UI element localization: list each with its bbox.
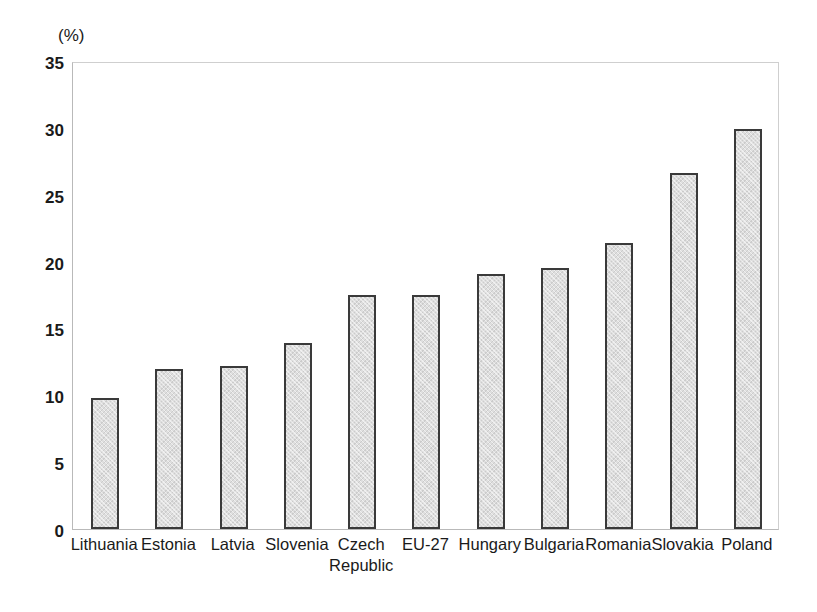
- bar-slot: [330, 63, 394, 529]
- x-axis-label: Poland: [705, 534, 789, 555]
- bar-poland[interactable]: [734, 129, 762, 529]
- bar-slot: [523, 63, 587, 529]
- y-axis-unit-label: (%): [58, 26, 84, 46]
- bar-slovenia[interactable]: [284, 343, 312, 529]
- bar-romania[interactable]: [605, 243, 633, 529]
- bar-slot: [587, 63, 651, 529]
- x-axis-labels: LithuaniaEstoniaLatviaSloveniaCzechRepub…: [72, 534, 779, 604]
- y-axis-tick-label: 30: [45, 121, 64, 138]
- bars-layer: [73, 63, 778, 529]
- bar-lithuania[interactable]: [91, 398, 119, 529]
- x-axis-label-line: Republic: [319, 555, 403, 576]
- plot-area: 35302520151050: [72, 62, 779, 530]
- y-axis-tick-label: 25: [45, 188, 64, 205]
- y-axis-tick-label: 10: [45, 389, 64, 406]
- y-axis-tick-label: 20: [45, 255, 64, 272]
- bar-bulgaria[interactable]: [541, 268, 569, 529]
- bar-slot: [651, 63, 715, 529]
- bar-slot: [137, 63, 201, 529]
- bar-slot: [394, 63, 458, 529]
- bar-slot: [459, 63, 523, 529]
- bar-slovakia[interactable]: [670, 173, 698, 529]
- bar-slot: [202, 63, 266, 529]
- bar-latvia[interactable]: [220, 366, 248, 529]
- bar-czech-republic[interactable]: [348, 295, 376, 529]
- y-axis-tick-label: 5: [55, 456, 64, 473]
- x-axis-label-line: Poland: [705, 534, 789, 555]
- bar-eu-27[interactable]: [412, 295, 440, 529]
- y-axis-tick-label: 15: [45, 322, 64, 339]
- y-axis-tick-label: 35: [45, 55, 64, 72]
- bar-slot: [73, 63, 137, 529]
- bar-chart: (%) 35302520151050 LithuaniaEstoniaLatvi…: [0, 0, 817, 612]
- bar-estonia[interactable]: [155, 369, 183, 529]
- bar-slot: [716, 63, 780, 529]
- bar-hungary[interactable]: [477, 274, 505, 529]
- bar-slot: [266, 63, 330, 529]
